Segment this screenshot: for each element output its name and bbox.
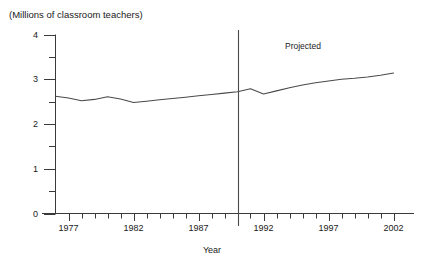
x-tick-label: 1977 <box>58 224 78 233</box>
teachers-trend-line <box>56 73 394 103</box>
x-axis-minor-ticks <box>83 214 382 219</box>
chart-figure: (Millions of classroom teachers) Project… <box>0 0 424 270</box>
y-axis-major-ticks <box>44 36 56 215</box>
x-axis <box>42 214 414 222</box>
y-tick-label: 1 <box>33 164 38 173</box>
y-tick-label: 3 <box>33 75 38 84</box>
y-tick-label: 0 <box>33 209 38 218</box>
x-tick-label: 1982 <box>123 224 143 233</box>
x-tick-label: 1997 <box>318 224 338 233</box>
y-tick-label: 4 <box>33 30 38 39</box>
y-axis <box>44 35 56 215</box>
x-tick-label: 1992 <box>253 224 273 233</box>
x-tick-label: 2002 <box>383 224 403 233</box>
x-tick-label: 1987 <box>188 224 208 233</box>
x-axis-major-ticks <box>70 214 395 222</box>
y-tick-label: 2 <box>33 120 38 129</box>
